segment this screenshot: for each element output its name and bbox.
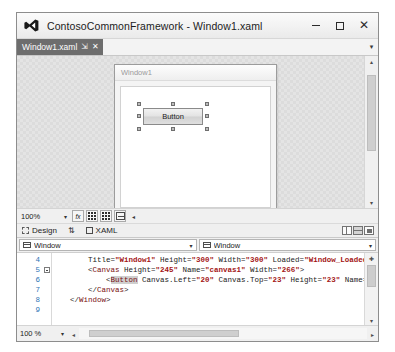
chevron-down-icon[interactable]: ▾ <box>61 330 68 337</box>
resize-handle-top-right[interactable] <box>205 102 209 106</box>
member-dropdown[interactable]: Window ▾ <box>199 239 377 251</box>
code-token: Height= <box>120 266 156 274</box>
code-token: < <box>106 276 111 284</box>
scroll-left-icon[interactable]: ◂ <box>128 213 139 220</box>
designer-vertical-scrollbar[interactable]: ▴ ▾ <box>364 56 378 208</box>
document-tab-window1-xaml[interactable]: Window1.xaml ⇲ ✕ <box>17 39 103 55</box>
scroll-left-icon[interactable]: ◂ <box>68 328 79 340</box>
scroll-right-icon[interactable]: ▸ <box>367 328 378 340</box>
code-token: Name= <box>178 266 205 274</box>
code-token: > <box>300 266 305 274</box>
zoom-level-combobox[interactable]: 100% ▾ <box>20 210 70 222</box>
resize-handle-bottom-middle[interactable] <box>171 127 175 131</box>
editor-vscroll-track[interactable] <box>365 263 378 315</box>
tab-xaml-label: XAML <box>96 226 118 235</box>
code-line[interactable] <box>52 305 364 315</box>
line-number: 5 <box>17 265 43 275</box>
code-text[interactable]: Title="Window1" Height="300" Width="300"… <box>52 253 364 325</box>
minimize-button[interactable] <box>304 16 328 36</box>
scroll-up-icon[interactable]: ▴ <box>365 56 378 67</box>
code-line[interactable]: Title="Window1" Height="300" Width="300"… <box>52 255 364 265</box>
resize-handle-bottom-right[interactable] <box>205 127 209 131</box>
code-token: Loaded= <box>268 256 304 264</box>
editor-hscroll-track[interactable] <box>79 328 367 339</box>
resize-handle-bottom-left[interactable] <box>137 127 141 131</box>
code-token: "266" <box>277 266 300 274</box>
design-surface[interactable]: Window1 Button <box>17 56 364 208</box>
pin-icon[interactable]: ⇲ <box>81 43 88 51</box>
resize-handle-middle-left[interactable] <box>137 114 141 118</box>
selection-adorner <box>137 102 209 131</box>
editor-text-area-wrap[interactable]: 456789 Title="Window1" Height="300" Widt… <box>17 253 364 325</box>
chevron-down-icon[interactable]: ▾ <box>369 242 375 249</box>
fold-slot <box>43 295 51 305</box>
code-line[interactable]: </Window> <box>52 295 364 305</box>
fold-slot <box>43 285 51 295</box>
close-button[interactable]: ✕ <box>352 16 376 36</box>
grid-rails-icon <box>102 212 110 220</box>
window-titlebar: ContosoCommonFramework - Window1.xaml ✕ <box>17 13 378 39</box>
type-dropdown[interactable]: Window ▾ <box>19 239 197 251</box>
code-line[interactable]: </Canvas> <box>52 285 364 295</box>
designer-vscroll-thumb[interactable] <box>367 75 376 151</box>
show-grid-button[interactable] <box>86 210 98 222</box>
horizontal-split-button[interactable] <box>353 226 363 235</box>
zoom-level-value: 100% <box>20 212 64 221</box>
scroll-down-icon[interactable]: ▾ <box>365 315 378 325</box>
code-token: > <box>124 286 129 294</box>
editor-zoom-value: 100 % <box>20 329 61 338</box>
line-number: 9 <box>17 305 43 315</box>
code-line[interactable]: <Canvas Height="245" Name="canvas1" Widt… <box>52 265 364 275</box>
tab-design[interactable]: Design <box>22 226 57 235</box>
resize-handle-middle-right[interactable] <box>205 114 209 118</box>
code-token: Width= <box>214 256 246 264</box>
effects-label: fx <box>75 213 80 220</box>
editor-vertical-scrollbar[interactable]: ✚ ▾ <box>364 253 378 325</box>
code-token: "23" <box>322 276 340 284</box>
collapse-pane-button[interactable] <box>364 226 374 235</box>
swap-panes-icon[interactable]: ⇅ <box>68 227 75 235</box>
fold-slot <box>43 275 51 285</box>
fold-slot[interactable] <box>43 265 51 275</box>
designer-zoom-toolbar: 100% ▾ fx ◂ <box>17 208 378 223</box>
chevron-down-icon[interactable]: ▾ <box>64 213 70 220</box>
code-line[interactable]: <Button Canvas.Left="20" Canvas.Top="23"… <box>52 275 364 285</box>
line-number-gutter: 456789 <box>17 253 43 325</box>
resize-handle-top-left[interactable] <box>137 102 141 106</box>
resize-handle-top-middle[interactable] <box>171 102 175 106</box>
view-tab-row: Design ⇅ XAML <box>17 223 378 238</box>
grid-rails-button[interactable] <box>100 210 112 222</box>
scroll-up-icon[interactable]: ✚ <box>365 253 378 263</box>
scroll-down-icon[interactable]: ▾ <box>365 197 378 208</box>
tab-design-label: Design <box>32 226 57 235</box>
tabstrip-spacer <box>103 39 365 55</box>
code-token: "canvas1" <box>205 266 246 274</box>
code-token: Height= <box>156 256 192 264</box>
tab-xaml[interactable]: XAML <box>86 226 118 235</box>
window-preview[interactable]: Window1 Button <box>114 64 277 208</box>
outlining-gutter[interactable] <box>43 253 52 325</box>
editor-hscroll-thumb[interactable] <box>89 330 239 337</box>
xaml-editor: 456789 Title="Window1" Height="300" Widt… <box>17 252 378 325</box>
designer-vscroll-track[interactable] <box>365 67 378 197</box>
chevron-down-icon[interactable]: ▾ <box>365 39 378 55</box>
chevron-down-icon[interactable]: ▾ <box>189 242 195 249</box>
editor-vscroll-thumb[interactable] <box>367 265 376 287</box>
document-tab-label: Window1.xaml <box>22 42 77 52</box>
code-token: "300" <box>192 256 215 264</box>
code-token: Title= <box>88 256 115 264</box>
preview-canvas[interactable]: Button <box>120 86 271 208</box>
editor-zoom-combobox[interactable]: 100 % ▾ <box>20 329 68 338</box>
editor-horizontal-scrollbar[interactable]: ◂ ▸ <box>68 328 378 339</box>
code-token: Canvas.Top= <box>214 276 268 284</box>
collapse-icon[interactable] <box>44 267 50 273</box>
effects-button[interactable]: fx <box>72 210 84 222</box>
code-token: > <box>106 296 111 304</box>
code-token: Height= <box>286 276 322 284</box>
code-token: Width= <box>246 266 278 274</box>
vertical-split-button[interactable] <box>342 226 352 235</box>
maximize-button[interactable] <box>328 16 352 36</box>
snap-to-grid-button[interactable] <box>114 210 126 222</box>
line-number: 7 <box>17 285 43 295</box>
close-icon[interactable]: ✕ <box>92 43 99 51</box>
